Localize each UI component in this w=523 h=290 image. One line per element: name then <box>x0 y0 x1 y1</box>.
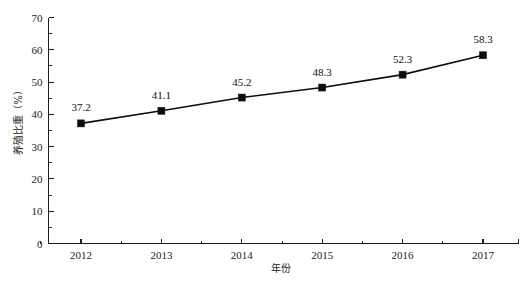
y-tick-label: 60 <box>32 44 44 56</box>
y-axis-title: 养殖比重（%） <box>12 85 24 155</box>
data-point-label: 45.2 <box>232 76 251 88</box>
x-tick-label: 2014 <box>231 249 254 261</box>
x-tick-label: 2015 <box>311 249 334 261</box>
y-axis-ticks <box>49 18 54 244</box>
data-point-label: 58.3 <box>473 33 493 45</box>
x-axis-title: 年份 <box>271 262 291 274</box>
y-tick-label: 50 <box>32 76 44 88</box>
series-line-aquaculture-share <box>81 55 483 123</box>
y-tick-label: 0 <box>37 238 43 250</box>
data-point-label: 48.3 <box>313 66 333 78</box>
data-point-label: 41.1 <box>152 89 171 101</box>
axis-group <box>49 18 519 244</box>
x-tick-label: 2013 <box>150 249 173 261</box>
y-tick-label: 40 <box>32 108 44 120</box>
series-markers <box>78 52 487 127</box>
x-tick-label: 2012 <box>70 249 92 261</box>
y-axis-tick-labels: 010203040506070 <box>32 12 44 250</box>
x-tick-label: 2016 <box>392 249 415 261</box>
data-point-marker <box>238 94 245 101</box>
y-tick-label: 70 <box>32 12 44 24</box>
x-axis-ticks <box>41 239 523 244</box>
series-value-labels: 37.241.145.248.352.358.3 <box>71 33 493 113</box>
x-axis-tick-labels: 201220132014201520162017 <box>70 249 495 261</box>
y-tick-label: 20 <box>32 173 44 185</box>
data-point-marker <box>78 120 85 127</box>
data-point-marker <box>480 52 487 59</box>
x-tick-label: 2017 <box>472 249 495 261</box>
y-tick-label: 10 <box>32 205 44 217</box>
y-tick-label: 30 <box>32 141 44 153</box>
data-point-marker <box>319 84 326 91</box>
data-point-marker <box>399 71 406 78</box>
data-point-label: 52.3 <box>393 53 413 65</box>
chart-container: 010203040506070 201220132014201520162017… <box>0 0 523 290</box>
data-point-label: 37.2 <box>71 101 90 113</box>
line-chart: 010203040506070 201220132014201520162017… <box>0 0 523 290</box>
data-point-marker <box>158 107 165 114</box>
